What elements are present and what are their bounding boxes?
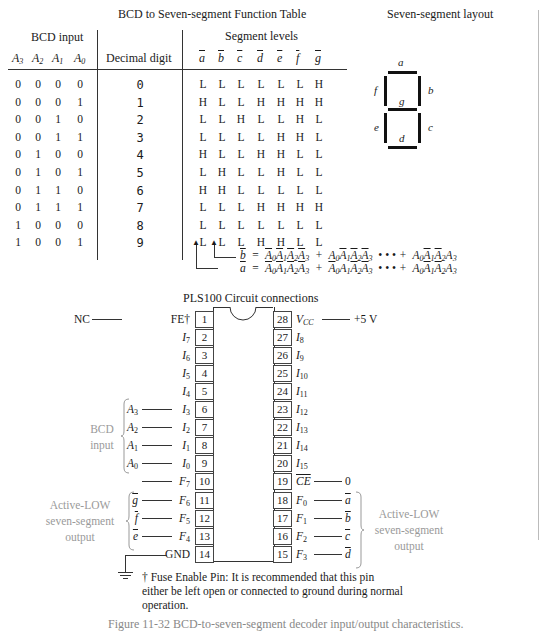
segment-level: H: [293, 131, 307, 143]
input-bit: 1: [51, 184, 65, 196]
footnote: † Fuse Enable Pin: It is recommended tha…: [142, 570, 403, 612]
pin-name-15: F3: [296, 546, 307, 566]
input-bit: 1: [51, 113, 65, 125]
col-header-a2: A2: [32, 51, 43, 66]
pin-connection-28: +5 V: [354, 311, 377, 327]
input-bit: 0: [31, 96, 45, 108]
segment-level: L: [254, 166, 268, 178]
segment-level: L: [312, 148, 326, 160]
pin-8: 8: [195, 437, 214, 454]
input-bit: 0: [73, 113, 87, 125]
input-bit: 0: [11, 201, 25, 213]
segment-level: L: [196, 219, 210, 231]
pin-name-17: F1: [296, 510, 307, 530]
segment-level: L: [215, 131, 229, 143]
col-header-seg-a: a: [199, 51, 205, 66]
segment-level: L: [234, 148, 248, 160]
input-bit: 0: [51, 166, 65, 178]
header-rule: [8, 69, 347, 70]
pin-connection-16: c: [345, 528, 350, 544]
pin-7: 7: [195, 419, 214, 436]
segment-level: L: [274, 219, 288, 231]
segment-level: L: [254, 219, 268, 231]
pin-connection-1: NC: [74, 311, 90, 327]
segment-c: [418, 113, 421, 143]
segment-level: L: [234, 166, 248, 178]
segment-level: H: [274, 236, 288, 248]
input-bit: 0: [51, 78, 65, 90]
pin-connection-17: b: [345, 510, 351, 526]
pin-3: 3: [195, 347, 214, 364]
input-bit: 1: [73, 236, 87, 248]
wire: [322, 319, 350, 320]
pin-28: 28: [273, 311, 292, 328]
segment-level: H: [196, 148, 210, 160]
column-separator: [182, 30, 183, 260]
pin-name-16: F2: [296, 528, 307, 548]
decimal-digit: 3: [133, 131, 147, 145]
circuit-title: PLS100 Circuit connections: [183, 291, 318, 306]
segment-level: L: [234, 201, 248, 213]
input-bit: 0: [31, 78, 45, 90]
input-bit: 1: [73, 201, 87, 213]
wire: [142, 409, 172, 410]
pin-name-9: I0: [182, 455, 190, 475]
wire: [142, 445, 172, 446]
col-header-seg-c: c: [237, 51, 242, 66]
pin-1: 1: [195, 311, 214, 328]
input-bit: 1: [31, 201, 45, 213]
input-bit: 0: [31, 131, 45, 143]
input-bit: 0: [11, 96, 25, 108]
segment-level: L: [234, 184, 248, 196]
wire: [314, 536, 342, 537]
segment-level: H: [254, 96, 268, 108]
pin-name-2: I7: [182, 329, 190, 349]
segment-f: [384, 76, 387, 106]
pin-name-27: I8: [296, 329, 304, 349]
segment-level: L: [215, 78, 229, 90]
pin-5: 5: [195, 383, 214, 400]
wire: [142, 463, 172, 464]
decimal-digit: 1: [133, 96, 147, 110]
segment-level: L: [312, 131, 326, 143]
pin-27: 27: [273, 329, 292, 346]
segment-layout-title: Seven-segment layout: [387, 7, 493, 22]
pin-25: 25: [273, 365, 292, 382]
decimal-digit: 7: [133, 201, 147, 215]
pin-name-26: I9: [296, 347, 304, 367]
input-bit: 0: [11, 78, 25, 90]
wire: [142, 536, 172, 537]
pin-name-20: I15: [296, 455, 308, 475]
pin-connection-19: 0: [345, 473, 351, 489]
pin-18: 18: [273, 492, 292, 509]
label-g: g: [399, 95, 405, 107]
segment-level: L: [196, 131, 210, 143]
segment-level: L: [196, 78, 210, 90]
segment-level: H: [312, 78, 326, 90]
pin-name-14: GND: [165, 546, 190, 562]
col-header-a0: A0: [74, 51, 85, 66]
input-bit: 1: [51, 201, 65, 213]
segment-level: L: [215, 113, 229, 125]
pin-connection-12: f: [135, 510, 138, 526]
segment-level: L: [215, 96, 229, 108]
pin-name-13: F4: [179, 528, 190, 548]
active-low-right-label: Active-LOWseven-segmentoutput: [364, 506, 454, 554]
wire: [314, 554, 342, 555]
equation-b: b = A0A1A2A3 + A0A1A2A3 • • • + A0A1A2A3: [240, 249, 457, 263]
pin-name-7: I2: [182, 419, 190, 439]
label-a: a: [398, 56, 404, 68]
segment-level: H: [274, 148, 288, 160]
col-header-seg-d: d: [257, 51, 263, 66]
input-bit: 1: [31, 184, 45, 196]
segment-level: L: [312, 113, 326, 125]
decimal-digit: 5: [133, 166, 147, 180]
segment-level: L: [274, 184, 288, 196]
input-bit: 0: [11, 131, 25, 143]
pin-name-6: I3: [182, 401, 190, 421]
segment-level: L: [274, 113, 288, 125]
pin-name-25: I10: [296, 365, 308, 385]
segment-level: H: [274, 201, 288, 213]
wire: [142, 427, 172, 428]
segment-level: L: [254, 113, 268, 125]
